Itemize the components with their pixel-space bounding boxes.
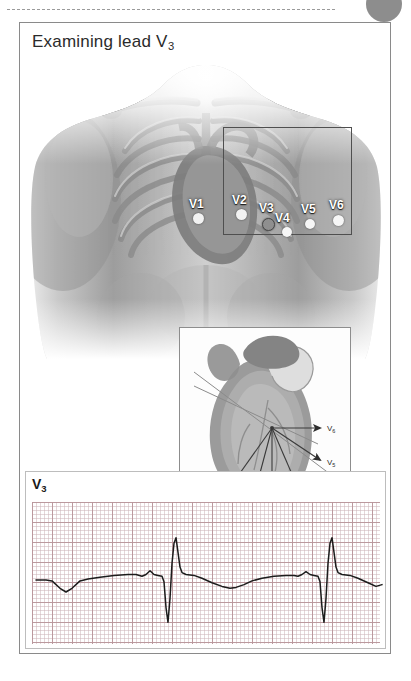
- electrode-v2-label: V2: [232, 193, 247, 207]
- electrode-v4-label: V4: [275, 211, 290, 225]
- page-title: Examining lead V3: [32, 32, 174, 52]
- ecg-strip-panel: V3: [25, 471, 386, 649]
- page-title-main: Examining lead V: [32, 32, 168, 51]
- page-title-subscript: 3: [168, 40, 174, 52]
- inset-label-v6: V6: [327, 424, 335, 434]
- corner-circle-marker: [366, 0, 402, 22]
- ecg-waveform: [32, 476, 384, 648]
- electrode-v4-dot[interactable]: [282, 227, 292, 237]
- torso-figure: V1 V2 V3 V4 V5 V6: [21, 59, 391, 359]
- electrode-v3-label: V3: [259, 201, 274, 215]
- electrode-v6-label: V6: [329, 198, 344, 212]
- electrode-v3-dot-highlighted[interactable]: [262, 218, 275, 231]
- electrode-v2-dot[interactable]: [236, 209, 247, 220]
- figure-panel: Examining lead V3: [19, 22, 391, 654]
- electrode-v1-dot[interactable]: [193, 213, 204, 224]
- electrode-v5-dot[interactable]: [305, 219, 315, 229]
- electrode-v6-dot[interactable]: [333, 215, 344, 226]
- electrode-v5-label: V5: [301, 202, 316, 216]
- top-dotted-rule: [6, 8, 336, 11]
- inset-label-v5: V5: [327, 458, 335, 468]
- electrode-v1-label: V1: [189, 197, 204, 211]
